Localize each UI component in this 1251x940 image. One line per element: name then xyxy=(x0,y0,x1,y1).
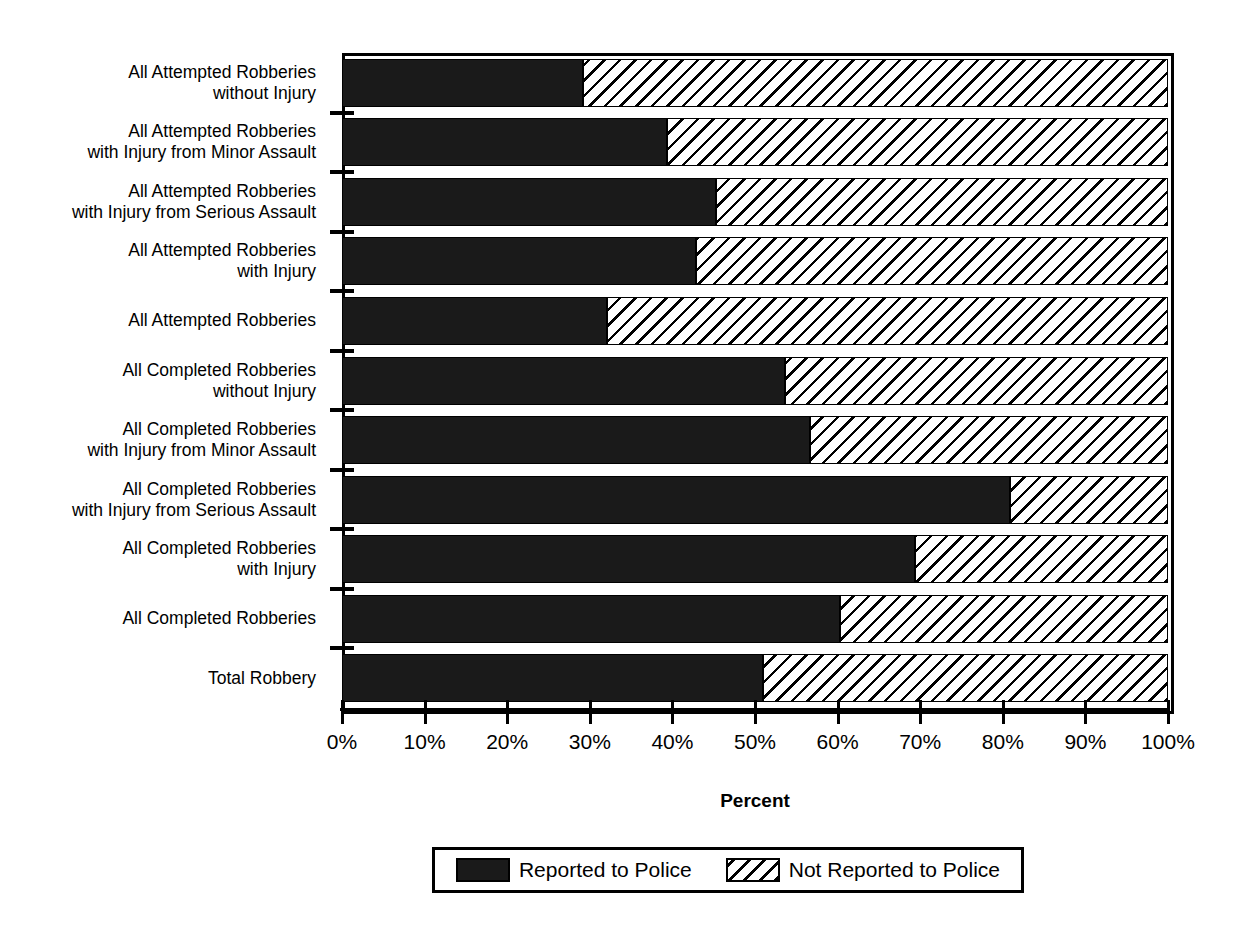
bar-row xyxy=(342,178,1168,226)
category-label: Total Robbery xyxy=(208,668,316,689)
robbery-reporting-stacked-bar-chart: All Attempted Robberies without InjuryAl… xyxy=(0,0,1251,940)
bar-row xyxy=(342,535,1168,583)
x-axis-tick xyxy=(1167,700,1170,724)
bar-segment-not-reported xyxy=(607,297,1168,345)
bar-segment-not-reported xyxy=(915,535,1168,583)
bar-segment-reported xyxy=(342,59,583,107)
x-axis-tick xyxy=(506,700,509,724)
x-axis-tick-label: 60% xyxy=(817,730,859,754)
x-axis-tick-label: 20% xyxy=(486,730,528,754)
x-axis: 0%10%20%30%40%50%60%70%80%90%100% xyxy=(342,708,1168,710)
x-axis-tick-label: 70% xyxy=(899,730,941,754)
bar-segment-reported xyxy=(342,476,1010,524)
category-label: All Completed Robberies with Injury from… xyxy=(87,419,316,461)
category-tick xyxy=(330,230,354,234)
category-label: All Attempted Robberies with Injury xyxy=(128,240,316,282)
category-tick xyxy=(330,527,354,531)
bar-row xyxy=(342,237,1168,285)
x-axis-tick-label: 0% xyxy=(327,730,357,754)
bar-segment-reported xyxy=(342,237,696,285)
category-label: All Completed Robberies with Injury from… xyxy=(72,479,316,521)
x-axis-tick-label: 10% xyxy=(404,730,446,754)
bar-segment-not-reported xyxy=(840,595,1168,643)
bar-segment-not-reported xyxy=(716,178,1168,226)
category-tick xyxy=(330,170,354,174)
bar-segment-reported xyxy=(342,595,840,643)
x-axis-tick xyxy=(424,700,427,724)
legend-label: Not Reported to Police xyxy=(789,858,1000,882)
bar-segment-not-reported xyxy=(810,416,1168,464)
bar-row xyxy=(342,654,1168,702)
x-axis-title: Percent xyxy=(342,790,1168,812)
bar-segment-reported xyxy=(342,357,785,405)
bar-segment-not-reported xyxy=(667,118,1168,166)
bar-segment-reported xyxy=(342,297,607,345)
category-label: All Completed Robberies xyxy=(122,608,316,629)
category-tick xyxy=(330,646,354,650)
bar-row xyxy=(342,416,1168,464)
x-axis-tick xyxy=(1084,700,1087,724)
legend-label: Reported to Police xyxy=(519,858,692,882)
category-axis-labels: All Attempted Robberies without InjuryAl… xyxy=(0,53,330,708)
x-axis-tick xyxy=(589,700,592,724)
category-label: All Completed Robberies with Injury xyxy=(122,538,316,580)
category-tick xyxy=(330,289,354,293)
x-axis-tick-label: 50% xyxy=(734,730,776,754)
legend-entry: Not Reported to Police xyxy=(726,858,1000,882)
category-tick xyxy=(330,408,354,412)
diagonal-hatch-swatch xyxy=(726,858,780,882)
x-axis-tick-label: 30% xyxy=(569,730,611,754)
bar-segment-reported xyxy=(342,416,810,464)
x-axis-tick xyxy=(671,700,674,724)
category-label: All Completed Robberies without Injury xyxy=(122,360,316,402)
legend-entry: Reported to Police xyxy=(456,858,692,882)
bar-segment-reported xyxy=(342,118,667,166)
category-tick xyxy=(330,587,354,591)
x-axis-tick-label: 90% xyxy=(1064,730,1106,754)
bar-segment-not-reported xyxy=(696,237,1168,285)
category-tick xyxy=(330,468,354,472)
bar-segment-not-reported xyxy=(583,59,1168,107)
category-tick xyxy=(330,349,354,353)
category-tick xyxy=(330,111,354,115)
category-label: All Attempted Robberies with Injury from… xyxy=(87,121,316,163)
bar-segment-reported xyxy=(342,178,716,226)
bar-segment-not-reported xyxy=(1010,476,1168,524)
chart-legend: Reported to PoliceNot Reported to Police xyxy=(432,847,1024,893)
bar-row xyxy=(342,59,1168,107)
bar-segment-not-reported xyxy=(763,654,1168,702)
solid-black-swatch xyxy=(456,858,510,882)
x-axis-tick xyxy=(1002,700,1005,724)
bar-row xyxy=(342,357,1168,405)
bar-segment-reported xyxy=(342,654,763,702)
bar-row xyxy=(342,118,1168,166)
x-axis-tick xyxy=(919,700,922,724)
bar-segment-not-reported xyxy=(785,357,1168,405)
bar-row xyxy=(342,595,1168,643)
category-label: All Attempted Robberies xyxy=(128,310,316,331)
x-axis-tick-label: 100% xyxy=(1141,730,1195,754)
x-axis-tick xyxy=(837,700,840,724)
category-label: All Attempted Robberies without Injury xyxy=(128,62,316,104)
x-axis-tick-label: 40% xyxy=(651,730,693,754)
plot-area xyxy=(342,53,1168,708)
category-label: All Attempted Robberies with Injury from… xyxy=(72,181,316,223)
x-axis-tick-label: 80% xyxy=(982,730,1024,754)
bar-segment-reported xyxy=(342,535,915,583)
x-axis-tick xyxy=(754,700,757,724)
bar-row xyxy=(342,476,1168,524)
bar-row xyxy=(342,297,1168,345)
x-axis-tick xyxy=(341,700,344,724)
